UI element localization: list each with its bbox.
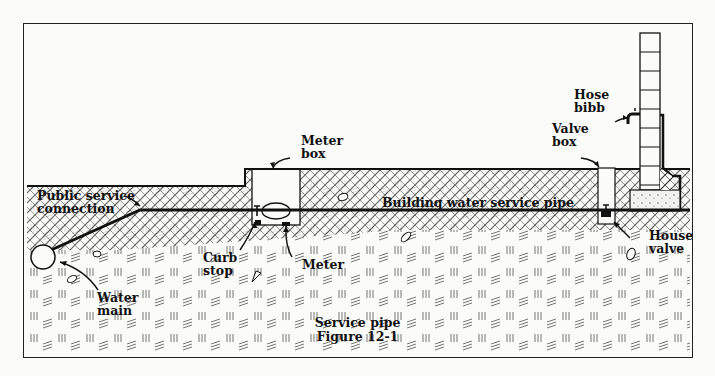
label-valve-box: Valve box — [552, 122, 589, 148]
label-public-service-connection: Public service connection — [37, 189, 135, 215]
label-curb-stop: Curb stop — [203, 251, 237, 277]
label-meter-box: Meter box — [301, 134, 343, 160]
figure-title: Service pipe — [0, 316, 715, 330]
water-main-icon — [31, 245, 55, 269]
label-line: stop — [203, 264, 237, 277]
label-line: valve — [649, 242, 693, 255]
figure-caption: Service pipe Figure 12-1 — [0, 316, 715, 344]
label-line: box — [552, 135, 589, 148]
hose-bibb-icon — [628, 108, 640, 124]
label-hose-bibb: Hose bibb — [574, 88, 609, 114]
label-meter: Meter — [302, 258, 344, 271]
label-water-main: Water main — [97, 291, 138, 317]
label-line: bibb — [574, 101, 609, 114]
label-building-water-service-pipe: Building water service pipe — [382, 196, 574, 209]
figure-number: Figure 12-1 — [0, 330, 715, 344]
meter-box — [252, 169, 300, 226]
footing — [630, 190, 680, 211]
valve-box — [598, 168, 615, 224]
label-house-valve: House valve — [649, 229, 693, 255]
label-line: connection — [37, 202, 135, 215]
label-line: box — [301, 147, 343, 160]
